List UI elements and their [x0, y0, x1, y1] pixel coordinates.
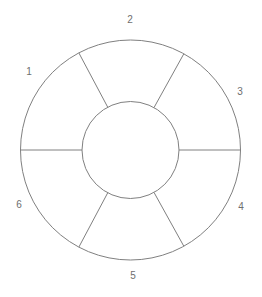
diagram-canvas: 123456 [0, 0, 262, 297]
sector-label-3: 3 [237, 87, 243, 97]
sector-divider-6 [154, 192, 184, 246]
sector-label-6: 6 [16, 200, 22, 210]
sector-divider-2 [154, 54, 184, 108]
inner-circle [82, 102, 179, 199]
annulus-diagram [0, 0, 262, 297]
sector-divider-5 [79, 193, 108, 247]
sector-divider-3 [79, 53, 108, 107]
sector-label-2: 2 [127, 15, 133, 25]
sector-label-5: 5 [130, 271, 136, 281]
sector-label-4: 4 [238, 202, 244, 212]
sector-label-1: 1 [26, 67, 32, 77]
